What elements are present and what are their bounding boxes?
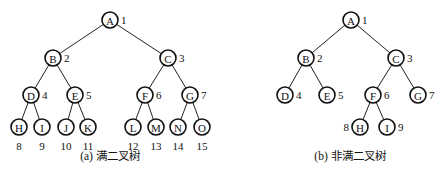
node-label: M [151,122,161,134]
tree-node-b: B2 [45,50,70,66]
node-label: C [164,53,171,65]
node-number: 6 [156,89,162,101]
node-number: 4 [296,89,302,101]
node-label: B [49,53,56,65]
node-label: H [15,122,23,134]
tree-node-d: D4 [23,87,48,103]
tree-edge [400,65,414,88]
tree-edge [117,24,162,53]
node-label: D [27,90,35,102]
node-label: F [370,90,376,102]
node-label: D [281,90,289,102]
tree-edge [35,65,49,88]
tree-edge [310,65,323,88]
node-label: K [84,122,92,134]
node-number: 14 [173,140,185,152]
node-label: O [198,122,206,134]
node-number: 7 [201,89,207,101]
tree-edge [68,103,73,120]
node-number: 5 [338,89,344,101]
node-label: C [392,53,399,65]
node-number: 15 [197,140,209,152]
tree-node-i: I9 [34,119,50,152]
node-number: 2 [317,52,323,64]
node-label: G [414,90,422,102]
node-number: 3 [407,52,413,64]
tree-edge [376,102,384,119]
node-number: 13 [151,140,163,152]
tree-node-o: O15 [194,119,210,152]
tree-edge [172,65,186,88]
node-label: N [174,122,182,134]
node-label: A [347,15,355,27]
node-label: B [302,53,309,65]
tree-node-a: A1 [343,12,368,28]
tree-edge [149,65,164,88]
tree-node-n: N14 [170,119,186,152]
node-label: L [130,122,137,134]
node-label: H [356,122,364,134]
tree-edge [289,65,302,88]
tree-edge [136,102,142,119]
node-number: 9 [398,121,404,133]
tree-edge [60,24,104,53]
node-number: 9 [39,140,45,152]
tree-node-l: L12 [125,119,141,152]
tree-edge [22,102,28,119]
tree-node-f: F6 [365,87,390,103]
tree-edge [181,102,187,119]
node-number: 2 [64,52,70,64]
tree-edge [357,25,390,53]
node-label: A [106,15,114,27]
node-number: 5 [86,89,92,101]
node-number: 1 [121,14,127,26]
node-number: 7 [429,89,435,101]
node-label: E [324,90,331,102]
node-number: 3 [179,52,185,64]
tree-edge [312,25,345,53]
tree-edge [78,102,85,119]
node-label: E [72,90,79,102]
tree-node-e: E5 [319,87,344,103]
tree-node-k: K11 [80,119,96,152]
tree-node-a: A1 [102,12,127,28]
tree-node-c: C3 [160,50,185,66]
node-label: J [64,122,69,134]
tree-node-c: C3 [388,50,413,66]
tree-node-b: B2 [298,50,323,66]
node-number: 4 [42,89,48,101]
tree-edge [34,103,40,120]
node-number: 1 [362,14,368,26]
tree-node-m: M13 [148,119,164,152]
node-label: F [142,90,148,102]
tree-edge [363,102,370,119]
tree-node-g: G7 [182,87,207,103]
node-number: 8 [16,140,22,152]
node-label: I [40,122,44,134]
non-full-binary-tree: A1B2C3D4E5F6G7H8I9(b) 非满二叉树 [277,12,435,163]
tree-edge [377,65,392,88]
full-binary-tree: A1B2C3D4E5F6G7H8I9J10K11L12M13N14O15(a) … [11,12,210,163]
figure-caption: (b) 非满二叉树 [314,149,386,163]
tree-node-g: G7 [410,87,435,103]
tree-node-d: D4 [277,87,302,103]
tree-node-i: I9 [379,119,404,135]
tree-edge [193,102,199,119]
tree-edge [148,103,154,120]
node-number: 6 [384,89,390,101]
tree-node-f: F6 [137,87,162,103]
binary-tree-diagram: A1B2C3D4E5F6G7H8I9J10K11L12M13N14O15(a) … [0,0,442,183]
tree-node-h: H8 [11,119,27,152]
node-number: 8 [344,121,350,133]
tree-edge [57,65,71,88]
tree-node-h: H8 [344,119,369,135]
node-number: 10 [61,140,73,152]
node-label: I [385,122,389,134]
tree-node-e: E5 [67,87,92,103]
figure-caption: (a) 满二叉树 [80,149,141,163]
tree-node-j: J10 [58,119,74,152]
node-label: G [186,90,194,102]
